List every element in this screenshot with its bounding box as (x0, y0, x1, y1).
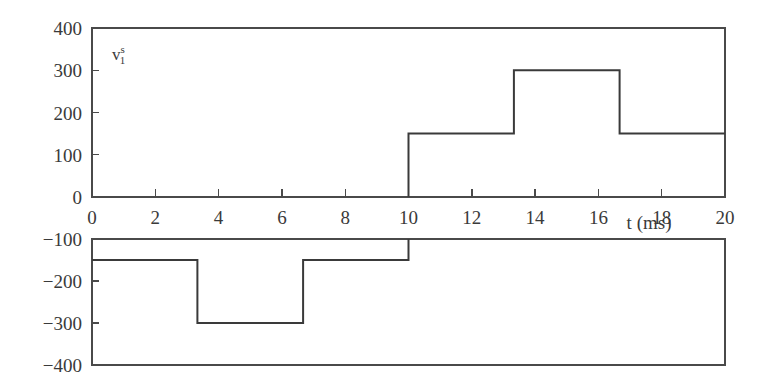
axis-tick-label: 100 (54, 145, 83, 166)
axis-tick-label: −300 (43, 313, 82, 334)
axis-tick-label: 14 (526, 207, 546, 228)
axis-tick-label: 20 (716, 207, 735, 228)
chart-figure: 0100200300400−100−200−300−40002468101214… (0, 0, 762, 389)
axis-tick-label: 300 (54, 60, 83, 81)
axis-tick-label: 16 (589, 207, 608, 228)
axis-tick-label: 4 (214, 207, 224, 228)
x-axis-caption: t (ms) (627, 212, 672, 234)
series-label: vs1 (112, 43, 125, 66)
axis-tick-label: −200 (43, 271, 82, 292)
axis-tick-label: 0 (87, 207, 97, 228)
axis-tick-label: 2 (151, 207, 161, 228)
axis-tick-label: 400 (54, 18, 83, 39)
waveform-plot: 0100200300400−100−200−300−40002468101214… (0, 0, 762, 389)
axis-tick-label: 6 (277, 207, 287, 228)
axis-tick-label: −100 (43, 229, 82, 250)
axis-tick-label: −400 (43, 355, 82, 376)
axis-tick-label: 0 (73, 187, 83, 208)
axis-tick-label: 12 (462, 207, 481, 228)
axis-tick-label: 10 (399, 207, 418, 228)
axis-tick-label: 200 (54, 103, 83, 124)
axis-tick-label: 8 (340, 207, 350, 228)
